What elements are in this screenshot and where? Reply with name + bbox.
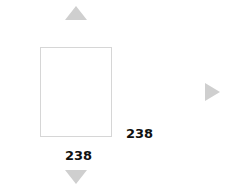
preview-box bbox=[40, 47, 112, 137]
height-label: 238 bbox=[126, 126, 153, 141]
arrow-up-icon[interactable] bbox=[65, 6, 87, 20]
arrow-down-icon[interactable] bbox=[65, 170, 87, 184]
arrow-right-icon[interactable] bbox=[205, 83, 220, 101]
width-label: 238 bbox=[65, 148, 92, 163]
